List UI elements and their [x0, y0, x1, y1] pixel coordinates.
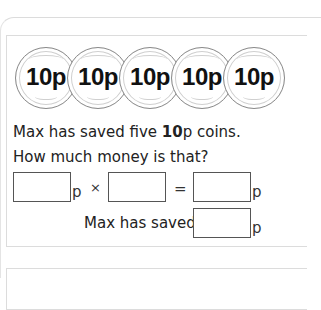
question-line-1: Max has saved five 10p coins.	[13, 123, 241, 141]
coin-label: 10p	[224, 63, 284, 91]
question-text: p coins.	[183, 123, 241, 141]
question-text: Max has saved five	[13, 123, 162, 141]
unit-p: p	[252, 183, 262, 201]
answer-label: Max has saved	[84, 214, 196, 232]
lion-emblem-icon	[243, 92, 265, 100]
lion-emblem-icon	[191, 92, 213, 100]
answer-box-result[interactable]	[193, 172, 251, 202]
answer-box-pence[interactable]	[13, 172, 71, 202]
times-sign: ×	[90, 180, 101, 195]
question-bold-value: 10	[162, 123, 183, 141]
unit-p: p	[252, 219, 262, 237]
answer-box-total[interactable]	[193, 208, 251, 238]
lion-emblem-icon	[87, 92, 109, 100]
next-question-panel	[6, 268, 307, 310]
question-line-2: How much money is that?	[13, 148, 208, 166]
ten-pence-coin: 10p	[223, 47, 285, 109]
lion-emblem-icon	[35, 92, 57, 100]
lion-emblem-icon	[139, 92, 161, 100]
equals-sign: =	[174, 180, 187, 198]
unit-p: p	[72, 183, 82, 201]
answer-box-multiplier[interactable]	[108, 172, 166, 202]
